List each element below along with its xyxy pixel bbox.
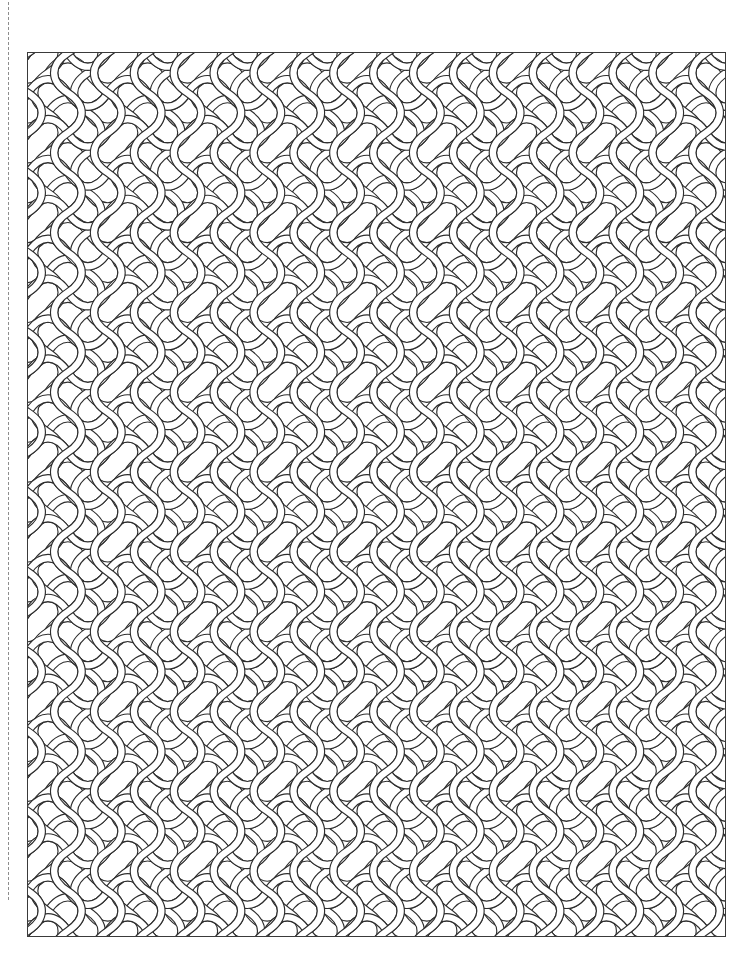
trim-guide-dashed-line	[8, 2, 9, 900]
celtic-knot-pattern	[28, 53, 725, 936]
art-frame-border	[27, 52, 726, 937]
page-root	[0, 0, 752, 978]
